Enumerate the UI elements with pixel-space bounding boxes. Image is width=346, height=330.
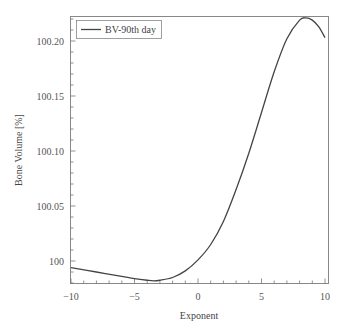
y-tick-label: 100.15 [37,91,65,102]
x-tick-label: −10 [63,291,79,302]
y-tick-label: 100 [49,256,64,267]
y-tick-label: 100.20 [37,36,65,47]
y-axis-ticks: 100100.05100.10100.15100.20 [37,19,76,283]
y-tick-label: 100.05 [37,201,65,212]
x-tick-label: 10 [320,291,330,302]
legend: BV-90th day [77,21,162,39]
y-tick-label: 100.10 [37,146,65,157]
series-line-bv-90th-day [71,18,325,281]
line-chart: −10−50510 100100.05100.10100.15100.20 Ex… [0,0,346,330]
x-axis-ticks: −10−50510 [63,279,330,303]
x-tick-label: −5 [129,291,140,302]
x-tick-label: 0 [196,291,201,302]
x-tick-label: 5 [259,291,264,302]
y-axis-title: Bone Volume [%] [13,114,24,186]
plot-frame [71,17,329,284]
x-axis-title: Exponent [180,310,219,321]
legend-label: BV-90th day [105,24,156,35]
